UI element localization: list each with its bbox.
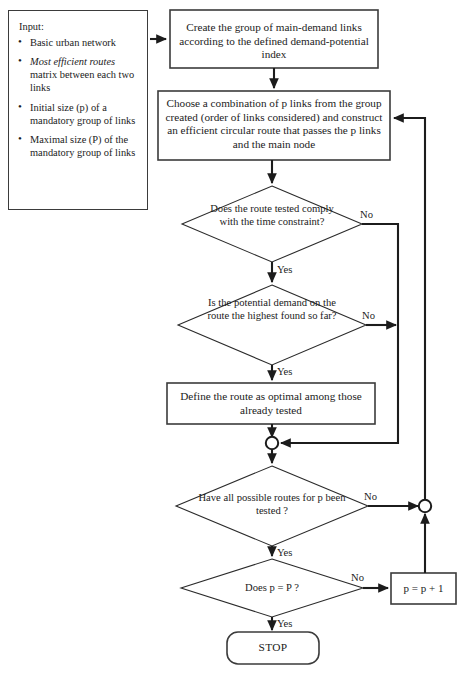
edge-label-p-equals-yes: Yes <box>277 618 292 631</box>
node-stop-label: STOP <box>227 641 319 655</box>
junction-center <box>266 437 278 449</box>
node-increment-p-label: p = p + 1 <box>391 582 456 595</box>
edge-label-all-routes-yes: Yes <box>277 547 292 560</box>
edge-label-time-yes: Yes <box>277 264 292 277</box>
node-p-equals-label: Does p = P ? <box>212 582 332 595</box>
node-create-group-label: Create the group of main-demand links ac… <box>174 21 374 62</box>
node-choose-combination-label: Choose a combination of p links from the… <box>162 97 386 152</box>
edge-label-all-routes-no: No <box>364 491 377 504</box>
junction-right <box>419 500 431 512</box>
node-all-routes-label: Have all possible routes for p been test… <box>196 492 348 518</box>
edge-label-p-equals-no: No <box>351 572 364 585</box>
node-time-constraint-label: Does the route tested comply with the ti… <box>203 203 341 229</box>
flowchart-diagram: Input: Basic urban network Most efficien… <box>0 0 472 673</box>
node-potential-demand-label: Is the potential demand on the route the… <box>205 297 339 323</box>
node-define-optimal-label: Define the route as optimal among those … <box>175 390 367 417</box>
edge-label-demand-yes: Yes <box>277 366 292 379</box>
edge-label-demand-no: No <box>362 310 375 323</box>
edge-label-time-no: No <box>360 209 373 222</box>
